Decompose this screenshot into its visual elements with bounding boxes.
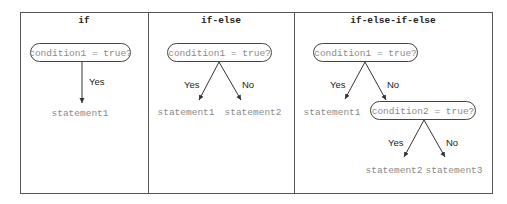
no-label-1: No (387, 79, 399, 90)
yes-edge-1 (345, 62, 365, 99)
yes-edge (199, 62, 219, 100)
yes-label-1: Yes (330, 79, 346, 90)
no-edge (219, 62, 241, 100)
no-label: No (242, 79, 254, 90)
condition-text-2: condition2 = true? (372, 106, 475, 117)
panel-title: if (78, 15, 90, 26)
statement-node-2: statement2 (224, 107, 281, 118)
condition-text-1: condition1 = true? (314, 48, 417, 59)
panel-title: if-else-if-else (350, 15, 436, 26)
statement-node-3: statement3 (425, 165, 482, 176)
yes-label-2: Yes (388, 137, 404, 148)
panel-if: if condition1 = true? Yes statement1 (29, 15, 132, 119)
no-edge-1 (365, 62, 386, 100)
panel-title: if-else (201, 15, 241, 26)
yes-edge-2 (404, 120, 424, 157)
no-label-2: No (446, 137, 458, 148)
statement-node-2: statement2 (365, 165, 422, 176)
condition-text: condition1 = true? (168, 48, 271, 59)
control-flow-diagram: if condition1 = true? Yes statement1 if-… (0, 0, 507, 204)
panel-if-else: if-else condition1 = true? Yes No statem… (157, 15, 281, 118)
condition-text: condition1 = true? (29, 48, 132, 59)
yes-label: Yes (184, 79, 200, 90)
statement-node: statement1 (51, 108, 108, 119)
statement-node-1: statement1 (303, 107, 360, 118)
yes-label: Yes (89, 76, 105, 87)
statement-node-1: statement1 (157, 107, 214, 118)
no-edge-2 (424, 120, 445, 157)
panel-if-else-if-else: if-else-if-else condition1 = true? Yes N… (303, 15, 482, 176)
